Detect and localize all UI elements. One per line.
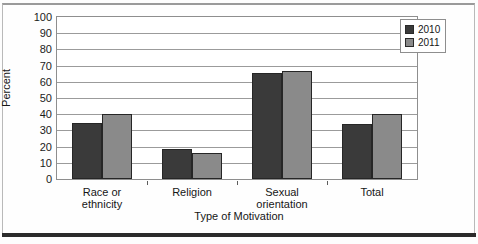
- x-axis-title: Type of Motivation: [0, 210, 478, 222]
- y-axis-tick-label: 100: [6, 12, 52, 22]
- x-axis-category-label-line: Sexual: [237, 186, 327, 198]
- x-axis-category-label-line: Race or: [57, 186, 147, 198]
- x-axis-category-label-line: Religion: [147, 186, 237, 198]
- y-axis-tick-label: 10: [6, 158, 52, 168]
- gridline: [57, 49, 417, 50]
- x-axis-category-label: Religion: [147, 186, 237, 198]
- bar-2011-total: [372, 114, 402, 179]
- y-axis-tick-labels: 0102030405060708090100: [4, 16, 52, 180]
- bar-2010-sexual-orientation: [252, 73, 282, 179]
- y-axis-tick-label: 0: [6, 174, 52, 184]
- chart-legend: 2010 2011: [400, 19, 446, 53]
- bar-2010-total: [342, 124, 372, 179]
- x-axis-category-label-line: Total: [327, 186, 417, 198]
- plot-area: [56, 16, 418, 180]
- gridline: [57, 66, 417, 67]
- legend-label-2011: 2011: [418, 37, 440, 48]
- bar-2010-religion: [162, 149, 192, 179]
- y-axis-tick-label: 80: [6, 44, 52, 54]
- x-axis-category-label-line: ethnicity: [57, 198, 147, 210]
- category-separator-tick: [147, 181, 148, 185]
- gridline: [57, 82, 417, 83]
- legend-item-2011: 2011: [405, 36, 440, 49]
- y-axis-tick-label: 40: [6, 109, 52, 119]
- bar-chart-figure: Percent 0102030405060708090100 Race oret…: [0, 0, 478, 244]
- bar-2010-race-or-ethnicity: [72, 123, 102, 179]
- gridline: [57, 33, 417, 34]
- y-axis-tick-label: 70: [6, 61, 52, 71]
- legend-label-2010: 2010: [418, 24, 440, 35]
- category-separator-tick: [237, 181, 238, 185]
- category-separator-tick: [327, 181, 328, 185]
- bar-2011-religion: [192, 153, 222, 179]
- y-axis-tick-label: 30: [6, 125, 52, 135]
- x-axis-category-label: Total: [327, 186, 417, 198]
- bar-2011-race-or-ethnicity: [102, 114, 132, 179]
- y-axis-tick-label: 90: [6, 28, 52, 38]
- gridline: [57, 98, 417, 99]
- x-axis-category-label: Race orethnicity: [57, 186, 147, 210]
- x-axis-category-label-line: orientation: [237, 198, 327, 210]
- legend-swatch-icon-2011: [405, 38, 414, 47]
- bar-2011-sexual-orientation: [282, 71, 312, 179]
- legend-item-2010: 2010: [405, 23, 440, 36]
- y-axis-tick-label: 50: [6, 93, 52, 103]
- figure-bottom-rule: [2, 233, 476, 237]
- legend-swatch-icon-2010: [405, 25, 414, 34]
- x-axis-category-label: Sexualorientation: [237, 186, 327, 210]
- y-axis-tick-label: 60: [6, 77, 52, 87]
- y-axis-tick-label: 20: [6, 142, 52, 152]
